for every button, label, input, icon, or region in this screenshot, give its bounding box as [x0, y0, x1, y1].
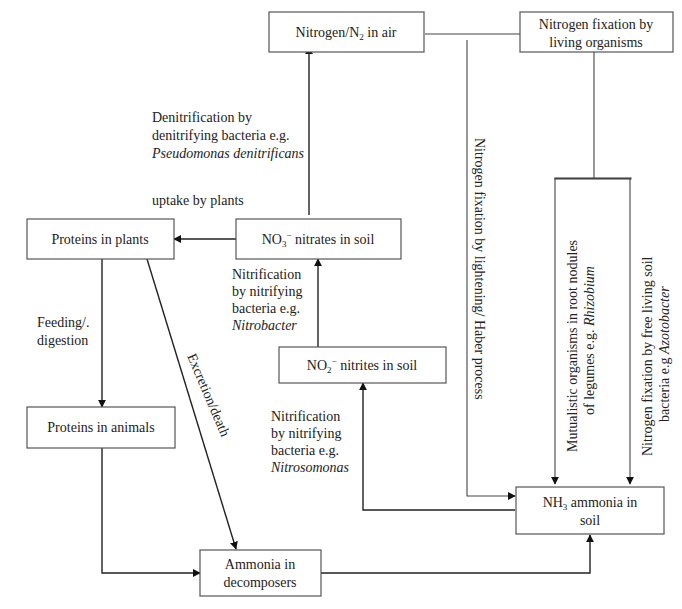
svg-text:Pseudomonas denitrificans: Pseudomonas denitrificans: [151, 146, 305, 161]
label-nitrification-nitrosomonas: Nitrification by nitrifying bacteria e.g…: [270, 409, 350, 475]
svg-text:denitrifying bacteria e.g.: denitrifying bacteria e.g.: [152, 128, 290, 143]
label-denitrification: Denitrification by denitrifying bacteria…: [151, 110, 305, 161]
arrow-animals-decomposers: [102, 448, 200, 573]
svg-text:digestion: digestion: [37, 333, 88, 348]
svg-text:decomposers: decomposers: [223, 575, 296, 590]
node-proteins-plants: Proteins in plants: [27, 219, 174, 259]
svg-text:by nitrifying: by nitrifying: [271, 426, 341, 441]
svg-text:Ammonia in: Ammonia in: [225, 557, 295, 572]
arrow-nitrification-nitrosomonas: [363, 383, 515, 510]
label-excretion: Excretion/death: [184, 351, 232, 438]
svg-text:bacteria e.g.: bacteria e.g.: [232, 301, 300, 316]
arrow-decomposers-ammonia: [321, 535, 590, 573]
svg-text:bacteria e.g.: bacteria e.g.: [271, 443, 339, 458]
label-free-living: Nitrogen fixation by free living soil ba…: [640, 256, 672, 456]
node-fixation-living: Nitrogen fixation by living organisms: [520, 12, 673, 52]
node-ammonia-soil: NH3 ammonia in soil: [516, 487, 664, 534]
svg-text:Nitrogen/N2 in air: Nitrogen/N2 in air: [296, 25, 397, 42]
svg-text:Feeding/.: Feeding/.: [37, 315, 90, 330]
svg-text:Proteins in animals: Proteins in animals: [47, 420, 154, 435]
node-n2-in-air: Nitrogen/N2 in air: [269, 12, 424, 52]
svg-text:NO3− nitrates in soil: NO3− nitrates in soil: [262, 230, 375, 249]
svg-text:Mutualistic organisms in root: Mutualistic organisms in root nodules: [565, 240, 580, 452]
svg-text:by nitrifying: by nitrifying: [232, 284, 302, 299]
svg-text:Denitrification by: Denitrification by: [152, 110, 252, 125]
svg-text:NH3 ammonia in: NH3 ammonia in: [543, 495, 638, 512]
svg-text:living organisms: living organisms: [549, 35, 642, 50]
svg-text:Nitrification: Nitrification: [232, 267, 301, 282]
svg-text:bacteria e.g Azotobacter: bacteria e.g Azotobacter: [657, 286, 672, 422]
label-feeding: Feeding/. digestion: [37, 315, 90, 348]
svg-text:Nitrogen fixation by free livi: Nitrogen fixation by free living soil: [640, 256, 655, 456]
label-lightning: Nitrogen fixation by lightening/ Haber p…: [472, 138, 487, 400]
label-mutualistic: Mutualistic organisms in root nodules of…: [565, 240, 597, 452]
svg-text:Nitrosomonas: Nitrosomonas: [270, 460, 350, 475]
node-ammonia-decomposers: Ammonia in decomposers: [200, 550, 321, 596]
arrow-excretion: [147, 259, 236, 549]
svg-text:Nitrification: Nitrification: [271, 409, 340, 424]
split-bracket: [555, 178, 631, 179]
label-nitrification-nitrobacter: Nitrification by nitrifying bacteria e.g…: [231, 267, 302, 333]
label-uptake: uptake by plants: [152, 193, 244, 208]
svg-text:of legumes e.g. Rhizobium: of legumes e.g. Rhizobium: [582, 266, 597, 415]
svg-text:NO2− nitrites in soil: NO2− nitrites in soil: [307, 356, 417, 375]
node-nitrates: NO3− nitrates in soil: [236, 219, 401, 259]
node-proteins-animals: Proteins in animals: [27, 407, 175, 448]
nitrogen-cycle-diagram: Nitrogen/N2 in air Nitrogen fixation by …: [0, 0, 682, 609]
node-nitrites: NO2− nitrites in soil: [279, 347, 446, 383]
svg-text:Proteins in plants: Proteins in plants: [51, 232, 148, 247]
svg-text:soil: soil: [580, 513, 600, 528]
svg-text:Nitrogen fixation by: Nitrogen fixation by: [539, 17, 653, 32]
svg-text:Nitrobacter: Nitrobacter: [231, 318, 297, 333]
